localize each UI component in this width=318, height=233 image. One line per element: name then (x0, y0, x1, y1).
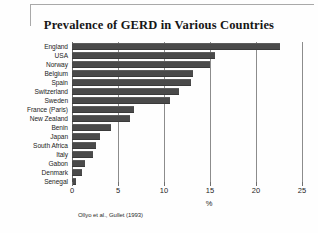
bar-row: Italy (0, 150, 318, 159)
bar (72, 106, 134, 113)
bar-row: Denmark (0, 168, 318, 177)
bar (72, 70, 193, 77)
bar-row: Senegal (0, 177, 318, 186)
tick-label-15: 15 (206, 186, 214, 196)
slide-frame-top-border (30, 4, 314, 5)
bar-rows: EnglandUSANorwayBelgiumSpainSwitzerlandS… (0, 42, 318, 186)
bar-track (72, 132, 100, 141)
category-label: South Africa (0, 141, 68, 150)
bar (72, 88, 179, 95)
bar (72, 124, 111, 131)
bar (72, 79, 191, 86)
bar-track (72, 96, 170, 105)
category-label: Italy (0, 150, 68, 159)
category-label: Sweden (0, 96, 68, 105)
category-label: Belgium (0, 69, 68, 78)
bar-track (72, 150, 93, 159)
bar-row: Benin (0, 123, 318, 132)
bar (72, 52, 215, 59)
category-label: Switzerland (0, 87, 68, 96)
category-label: USA (0, 51, 68, 60)
bar (72, 61, 210, 68)
bar-row: Spain (0, 78, 318, 87)
bar (72, 151, 93, 158)
bar-row: Belgium (0, 69, 318, 78)
bar-row: England (0, 42, 318, 51)
bar-row: USA (0, 51, 318, 60)
bar (72, 142, 96, 149)
bar-row: Japan (0, 132, 318, 141)
bar (72, 115, 130, 122)
bar (72, 160, 85, 167)
bar (72, 169, 82, 176)
category-label: Senegal (0, 177, 68, 186)
bar-row: France (Paris) (0, 105, 318, 114)
bar-row: Gabon (0, 159, 318, 168)
bar-track (72, 123, 111, 132)
category-label: Benin (0, 123, 68, 132)
x-axis-label: % (0, 199, 318, 208)
category-label: New Zealand (0, 114, 68, 123)
bar (72, 97, 170, 104)
bar-track (72, 60, 210, 69)
bar-row: Sweden (0, 96, 318, 105)
category-label: Denmark (0, 168, 68, 177)
plot-area: EnglandUSANorwayBelgiumSpainSwitzerlandS… (0, 42, 318, 188)
bar-track (72, 168, 82, 177)
tick-label-5: 5 (116, 186, 120, 196)
source-citation: Ollyo et al., Gullet (1993) (78, 212, 143, 218)
bar-track (72, 159, 85, 168)
bar-track (72, 114, 130, 123)
bar-track (72, 42, 280, 51)
category-label: France (Paris) (0, 105, 68, 114)
category-label: Gabon (0, 159, 68, 168)
bar (72, 133, 100, 140)
category-label: England (0, 42, 68, 51)
bar-track (72, 78, 191, 87)
tick-label-0: 0 (70, 186, 74, 196)
bar-track (72, 141, 96, 150)
category-label: Spain (0, 78, 68, 87)
chart-slide: Prevalence of GERD in Various Countries … (0, 0, 318, 233)
bar-row: New Zealand (0, 114, 318, 123)
tick-label-25: 25 (298, 186, 306, 196)
bar-row: Switzerland (0, 87, 318, 96)
bar-row: Norway (0, 60, 318, 69)
bar-track (72, 87, 179, 96)
chart-title: Prevalence of GERD in Various Countries (0, 18, 318, 33)
category-label: Norway (0, 60, 68, 69)
bar-track (72, 51, 215, 60)
bar-track (72, 69, 193, 78)
category-label: Japan (0, 132, 68, 141)
bar (72, 43, 280, 50)
tick-label-10: 10 (160, 186, 168, 196)
tick-label-20: 20 (252, 186, 260, 196)
bar-row: South Africa (0, 141, 318, 150)
bar-track (72, 105, 134, 114)
